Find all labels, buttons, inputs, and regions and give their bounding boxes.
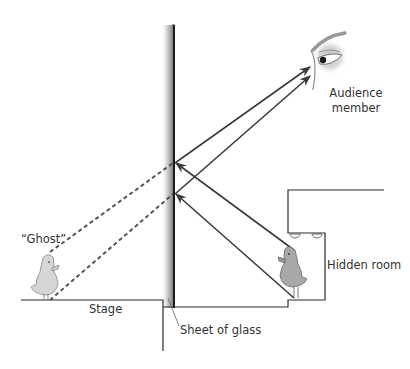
sheet-of-glass-label: Sheet of glass: [180, 323, 261, 338]
stage-label: Stage: [89, 302, 122, 317]
audience-member-label: Audience member: [328, 86, 384, 116]
eye-icon: [311, 33, 348, 90]
real-duck-icon: [278, 247, 307, 298]
reflected-rays: [175, 67, 310, 194]
sheet-of-glass: [161, 25, 175, 308]
ghost-label: “Ghost”: [21, 232, 66, 247]
peppers-ghost-diagram: [0, 0, 410, 369]
hidden-room-lights: [290, 234, 322, 238]
virtual-rays: [50, 163, 173, 300]
audience-label-line1: Audience: [328, 86, 384, 101]
ghost-duck-icon: [31, 255, 59, 300]
hidden-room-label: Hidden room: [327, 258, 401, 273]
audience-label-line2: member: [328, 101, 384, 116]
incident-rays: [176, 163, 294, 298]
